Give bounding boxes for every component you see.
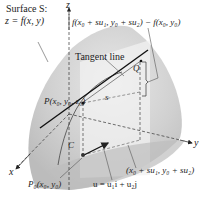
y-axis-label: y <box>194 138 198 148</box>
point-p0 <box>81 153 85 157</box>
point-q <box>140 60 143 63</box>
curve-c-label: C <box>68 141 74 150</box>
unit-vector-label: u = u₁i + u₂j <box>93 180 137 189</box>
surface-label: Surface S: <box>6 4 47 14</box>
p-label: P(x₀, y₀, z₀) <box>44 97 85 106</box>
surface-equation: z = f(x, y) <box>5 16 44 26</box>
z-axis-label: z <box>66 0 70 10</box>
p0-label: P₀(x₀, y₀) <box>28 180 61 189</box>
s-label: s <box>105 93 109 102</box>
q-label: Q <box>133 64 140 73</box>
shifted-point-label: (x₀ + su₁, y₀ + su₂) <box>126 166 194 175</box>
tangent-line-label: Tangent line <box>75 52 125 62</box>
difference-label: f(x₀ + su₁, y₀ + su₂) − f(x₀, y₀) <box>72 18 180 27</box>
x-axis-label: x <box>9 167 13 177</box>
